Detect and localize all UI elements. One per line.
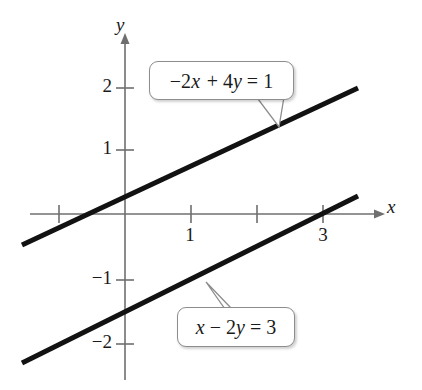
x-tick-label-3: 3 [308, 224, 338, 246]
upper-coefficient-4: 4 [223, 70, 233, 92]
lower-operator: − [210, 316, 221, 338]
y-axis [121, 33, 130, 380]
y-tick-label-2: 2 [72, 75, 112, 97]
upper-operator: + [207, 70, 218, 92]
y-tick-label-minus-2: −2 [72, 331, 112, 353]
callout-upper-tail [258, 97, 284, 127]
y-axis-label: y [116, 14, 124, 36]
upper-rhs-value: 1 [263, 70, 273, 92]
upper-equals-sign: = [247, 70, 258, 92]
lower-rhs-value: 3 [266, 316, 276, 338]
upper-var-x: x [191, 70, 200, 92]
callout-lower-tail [206, 282, 231, 309]
equation-callout-lower: x − 2y = 3 [177, 307, 295, 347]
x-axis-label: x [387, 196, 395, 218]
lower-var-x: x [196, 316, 205, 338]
x-tick-label-1: 1 [175, 224, 205, 246]
upper-var-y: y [233, 70, 242, 92]
lower-equals-sign: = [250, 316, 261, 338]
y-tick-label-1: 1 [72, 137, 112, 159]
upper-lhs-sign: −2 [170, 70, 191, 92]
x-axis-arrowhead [374, 210, 385, 219]
y-tick-label-minus-1: −1 [72, 267, 112, 289]
lower-var-y: y [236, 316, 245, 338]
equation-callout-upper: −2x + 4y = 1 [149, 61, 294, 100]
lower-coefficient-2: 2 [226, 316, 236, 338]
equation-callout-upper-text: −2x + 4y = 1 [161, 71, 282, 91]
equation-callout-lower-text: x − 2y = 3 [187, 317, 285, 337]
